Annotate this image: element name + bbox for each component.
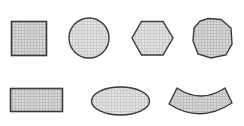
ellipse-shape — [92, 87, 150, 115]
circle-shape — [69, 18, 109, 58]
octagon-shape — [193, 19, 232, 59]
rectangle-shape — [11, 89, 63, 112]
hexagon-shape — [132, 22, 173, 56]
arc-segment-shape — [169, 88, 232, 114]
square-shape — [12, 22, 47, 56]
shapes-diagram — [0, 0, 244, 126]
